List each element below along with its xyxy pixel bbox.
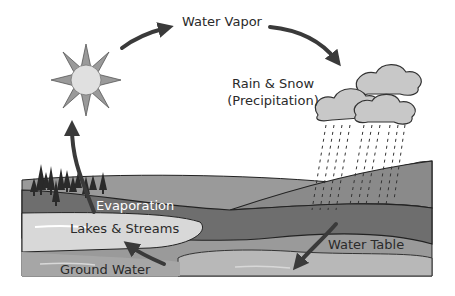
arrow-to-precipitation-icon: [270, 27, 336, 60]
label-precipitation-line1: Rain & Snow: [228, 76, 318, 91]
label-precipitation-line2: (Precipitation): [226, 93, 320, 108]
label-water-vapor: Water Vapor: [182, 14, 262, 29]
land-layers: [22, 161, 432, 276]
label-evaporation: Evaporation: [96, 198, 174, 213]
sun-icon: [51, 44, 121, 116]
label-ground-water: Ground Water: [60, 262, 150, 277]
label-lakes-streams: Lakes & Streams: [70, 221, 179, 236]
arrow-to-vapor-icon: [122, 28, 166, 48]
label-water-table: Water Table: [328, 237, 404, 252]
cloud-icon: [315, 65, 421, 124]
